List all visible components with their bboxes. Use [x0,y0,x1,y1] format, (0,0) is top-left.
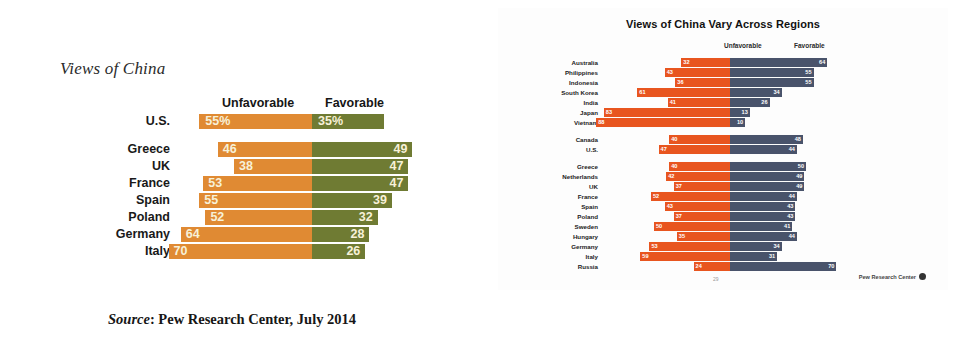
right-bar-favorable[interactable]: 10 [730,118,745,127]
right-bar-unfavorable-value: 88 [598,118,604,127]
right-bar-favorable[interactable]: 49 [730,182,804,191]
right-bar-unfavorable[interactable]: 50 [654,222,730,231]
right-bar-favorable[interactable]: 41 [730,222,792,231]
right-bar-row[interactable]: Indonesia3655 [498,78,948,87]
right-bar-favorable[interactable]: 43 [730,212,795,221]
left-bar-row[interactable]: Germany6428 [0,227,470,242]
right-bar-row[interactable]: Sweden5041 [498,222,948,231]
right-bar-unfavorable[interactable]: 41 [668,98,730,107]
right-bar-favorable[interactable]: 31 [730,252,777,261]
right-bar-unfavorable[interactable]: 43 [665,68,730,77]
left-bar-favorable[interactable]: 35% [312,114,384,129]
right-bar-row[interactable]: Germany5334 [498,242,948,251]
left-bar-favorable[interactable]: 49 [312,142,412,157]
right-bar-row[interactable]: Italy5931 [498,252,948,261]
right-bar-unfavorable[interactable]: 40 [669,162,730,171]
right-bar-row[interactable]: UK3749 [498,182,948,191]
right-bar-row[interactable]: South Korea6134 [498,88,948,97]
right-bar-favorable[interactable]: 34 [730,242,782,251]
left-bar-unfavorable-value: 55% [205,114,230,129]
left-bar-favorable[interactable]: 26 [312,244,365,259]
right-bar-favorable-value: 43 [787,202,793,211]
right-bar-row[interactable]: Greece4050 [498,162,948,171]
right-bar-row[interactable]: U.S.4744 [498,145,948,154]
right-bar-unfavorable-value: 36 [677,78,683,87]
left-bar-unfavorable[interactable]: 64 [181,227,312,242]
right-bar-row[interactable]: Philippines4355 [498,68,948,77]
left-bar-unfavorable[interactable]: 55% [199,114,312,129]
right-bar-row[interactable]: Canada4048 [498,135,948,144]
left-bar-row[interactable]: U.S.55%35% [0,114,470,129]
right-bar-row[interactable]: France5244 [498,192,948,201]
right-bar-unfavorable[interactable]: 24 [694,262,730,271]
left-bar-favorable[interactable]: 47 [312,159,408,174]
right-bar-row[interactable]: Australia3264 [498,58,948,67]
right-bar-track: 5334 [498,242,948,251]
right-bar-favorable-value: 49 [796,172,802,181]
right-bar-unfavorable[interactable]: 35 [677,232,730,241]
left-bar-unfavorable[interactable]: 52 [205,210,312,225]
right-bar-row[interactable]: Netherlands4249 [498,172,948,181]
left-bar-row[interactable]: Spain5539 [0,193,470,208]
left-bar-unfavorable[interactable]: 46 [218,142,312,157]
right-bar-unfavorable[interactable]: 61 [637,88,730,97]
right-bar-unfavorable-value: 43 [667,202,673,211]
right-bar-row[interactable]: Hungary3544 [498,232,948,241]
left-header-unfavorable: Unfavorable [222,96,294,110]
right-bar-track: 3655 [498,78,948,87]
left-bar-favorable[interactable]: 47 [312,176,408,191]
right-bar-favorable[interactable]: 44 [730,192,797,201]
right-bar-favorable[interactable]: 48 [730,135,803,144]
left-bar-row[interactable]: Italy7026 [0,244,470,259]
right-bar-row[interactable]: India4126 [498,98,948,107]
right-bar-row[interactable]: Japan8313 [498,108,948,117]
right-bar-favorable[interactable]: 55 [730,68,814,77]
right-bar-favorable-value: 55 [805,78,811,87]
left-bar-row[interactable]: Greece4649 [0,142,470,157]
right-bar-row[interactable]: Spain4343 [498,202,948,211]
right-bar-unfavorable[interactable]: 88 [596,118,730,127]
left-bar-favorable-value: 47 [389,159,403,174]
right-bar-favorable-value: 43 [787,212,793,221]
right-bar-unfavorable[interactable]: 83 [604,108,730,117]
left-bar-unfavorable[interactable]: 38 [234,159,312,174]
left-bar-unfavorable[interactable]: 53 [203,176,312,191]
right-bar-row[interactable]: Poland3743 [498,212,948,221]
right-bar-unfavorable-value: 37 [676,212,682,221]
left-bar-favorable[interactable]: 39 [312,193,392,208]
right-bar-favorable[interactable]: 55 [730,78,814,87]
right-bar-favorable[interactable]: 49 [730,172,804,181]
right-bar-unfavorable[interactable]: 43 [665,202,730,211]
right-bar-favorable[interactable]: 13 [730,108,750,117]
left-bar-row[interactable]: Poland5232 [0,210,470,225]
right-bar-unfavorable[interactable]: 36 [675,78,730,87]
left-bar-favorable[interactable]: 32 [312,210,378,225]
right-bar-row[interactable]: Vietnam8810 [498,118,948,127]
right-bar-favorable[interactable]: 26 [730,98,770,107]
right-bar-favorable-value: 50 [798,162,804,171]
left-bar-row[interactable]: France5347 [0,176,470,191]
right-bar-favorable[interactable]: 44 [730,232,797,241]
right-bar-unfavorable[interactable]: 53 [649,242,730,251]
left-bar-row[interactable]: UK3847 [0,159,470,174]
right-bar-row[interactable]: Russia2470 [498,262,948,271]
right-bar-favorable[interactable]: 50 [730,162,806,171]
right-bar-favorable-value: 31 [769,252,775,261]
right-bar-unfavorable[interactable]: 37 [674,212,730,221]
right-bar-unfavorable[interactable]: 40 [669,135,730,144]
right-bar-unfavorable[interactable]: 32 [681,58,730,67]
left-bar-favorable[interactable]: 28 [312,227,369,242]
right-bar-favorable[interactable]: 70 [730,262,836,271]
right-bar-favorable[interactable]: 34 [730,88,782,97]
right-bar-favorable[interactable]: 43 [730,202,795,211]
right-bar-unfavorable[interactable]: 37 [674,182,730,191]
right-bar-favorable-value: 10 [737,118,743,127]
left-bar-unfavorable[interactable]: 55 [199,193,312,208]
right-bar-unfavorable[interactable]: 42 [666,172,730,181]
right-bar-favorable[interactable]: 44 [730,145,797,154]
right-bar-favorable[interactable]: 64 [730,58,827,67]
right-bar-unfavorable[interactable]: 52 [651,192,730,201]
right-bar-unfavorable[interactable]: 47 [659,145,730,154]
right-bar-unfavorable[interactable]: 59 [640,252,730,261]
left-bar-unfavorable[interactable]: 70 [169,244,313,259]
